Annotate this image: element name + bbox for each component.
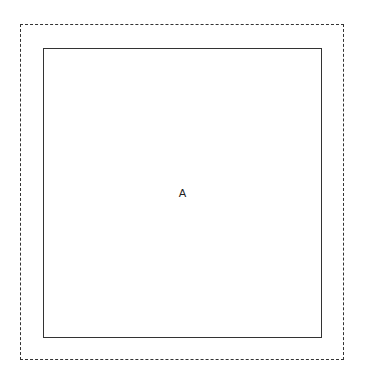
box-label: A — [44, 49, 321, 337]
inner-box-a: A — [43, 48, 322, 338]
